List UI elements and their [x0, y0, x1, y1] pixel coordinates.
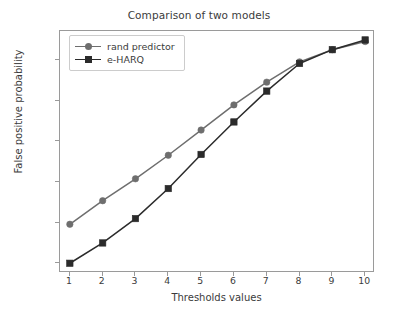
data-point — [99, 198, 105, 204]
y-tick-mark — [55, 59, 59, 60]
data-point — [362, 37, 368, 43]
y-tick-mark — [55, 262, 59, 263]
data-point — [198, 151, 204, 157]
x-tick-label: 2 — [87, 275, 117, 286]
y-tick-mark — [55, 222, 59, 223]
x-tick-mark — [102, 272, 103, 276]
x-tick-mark — [200, 272, 201, 276]
x-tick-mark — [364, 272, 365, 276]
legend-item: e-HARQ — [75, 53, 175, 66]
data-point — [264, 88, 270, 94]
x-tick-mark — [134, 272, 135, 276]
legend-marker — [85, 56, 92, 63]
legend-label: e-HARQ — [101, 54, 144, 65]
data-point — [231, 102, 237, 108]
x-tick-mark — [69, 272, 70, 276]
x-tick-label: 7 — [251, 275, 281, 286]
x-tick-label: 8 — [284, 275, 314, 286]
chart-legend: rand predictore-HARQ — [69, 35, 185, 71]
data-point — [198, 127, 204, 133]
chart-title: Comparison of two models — [0, 9, 398, 21]
x-tick-mark — [233, 272, 234, 276]
legend-label: rand predictor — [101, 41, 175, 52]
legend-item: rand predictor — [75, 40, 175, 53]
chart-figure: Comparison of two models 0.100.150.200.2… — [0, 0, 398, 311]
y-tick-mark — [55, 100, 59, 101]
series-layer — [67, 37, 369, 267]
data-point — [165, 185, 171, 191]
x-tick-label: 4 — [152, 275, 182, 286]
series-line-1 — [70, 40, 365, 263]
x-tick-mark — [266, 272, 267, 276]
data-point — [99, 240, 105, 246]
x-tick-mark — [331, 272, 332, 276]
legend-square-marker-icon — [75, 54, 101, 66]
x-tick-label: 3 — [119, 275, 149, 286]
x-tick-mark — [167, 272, 168, 276]
data-point — [329, 46, 335, 52]
x-tick-label: 9 — [316, 275, 346, 286]
data-point — [67, 221, 73, 227]
x-tick-mark — [299, 272, 300, 276]
x-axis-label: Thresholds values — [59, 292, 374, 303]
data-point — [165, 152, 171, 158]
data-point — [231, 119, 237, 125]
x-tick-label: 1 — [54, 275, 84, 286]
legend-marker — [85, 43, 92, 50]
y-axis-label: False positive probability — [13, 12, 24, 212]
x-tick-label: 5 — [185, 275, 215, 286]
data-point — [132, 176, 138, 182]
data-point — [67, 260, 73, 266]
data-point — [296, 60, 302, 66]
y-tick-mark — [55, 181, 59, 182]
x-tick-label: 6 — [218, 275, 248, 286]
data-point — [132, 215, 138, 221]
x-tick-label: 10 — [349, 275, 379, 286]
data-point — [264, 79, 270, 85]
y-tick-mark — [55, 140, 59, 141]
legend-circle-marker-icon — [75, 41, 101, 53]
